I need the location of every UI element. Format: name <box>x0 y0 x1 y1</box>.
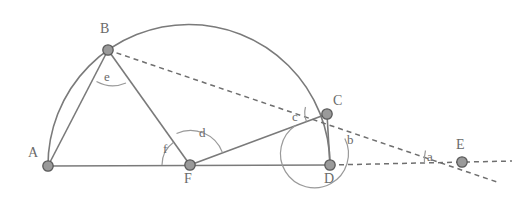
point-label-c: C <box>333 94 342 108</box>
angle-label-d: d <box>199 126 206 139</box>
angle-arc-c <box>305 107 307 122</box>
angle-label-c: c <box>292 110 298 123</box>
point-label-e: E <box>456 138 465 152</box>
vertex-a <box>43 161 53 171</box>
semicircle-arc <box>48 24 330 166</box>
angle-label-e: e <box>104 70 110 83</box>
vertex-e <box>457 157 467 167</box>
vertex-f <box>185 160 195 170</box>
segment-ab <box>48 50 108 166</box>
angle-label-f: f <box>163 142 167 155</box>
vertex-d <box>325 160 335 170</box>
vertex-b <box>103 45 113 55</box>
segment-fc <box>190 114 327 165</box>
angle-label-b: b <box>347 133 354 146</box>
vertex-c <box>322 109 332 119</box>
point-label-f: F <box>184 172 192 186</box>
point-label-b: B <box>100 22 109 36</box>
angle-arc-b <box>280 126 348 188</box>
diagram-canvas <box>0 0 520 197</box>
angle-label-a: a <box>427 150 433 163</box>
point-label-d: D <box>324 172 334 186</box>
segment-bf <box>108 50 190 165</box>
point-label-a: A <box>28 146 38 160</box>
dashed-line-de <box>330 161 512 165</box>
angle-arc-e <box>97 82 127 86</box>
geometry-figure: A B C D E F a b c d e f <box>0 0 520 197</box>
